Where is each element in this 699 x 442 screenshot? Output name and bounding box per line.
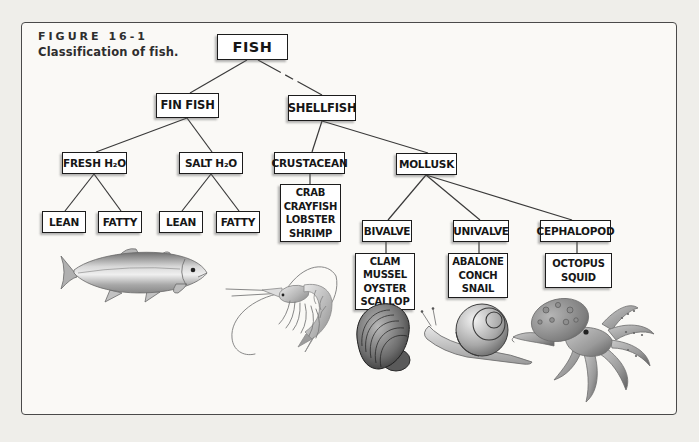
node-fresh-h2o: FRESH H₂O bbox=[62, 152, 127, 174]
node-salt-h2o: SALT H₂O bbox=[179, 152, 243, 174]
trout-illustration bbox=[58, 246, 210, 306]
node-mollusk: MOLLUSK bbox=[396, 153, 457, 175]
node-crustacean: CRUSTACEAN bbox=[274, 152, 345, 174]
arm-right bbox=[608, 325, 654, 340]
node-fresh-lean: LEAN bbox=[42, 211, 86, 233]
shrimp-eye bbox=[282, 294, 285, 297]
fish-eye bbox=[191, 268, 196, 273]
figure-label: FIGURE 16-1 bbox=[38, 30, 148, 43]
node-univalve: UNIVALVE bbox=[453, 220, 509, 242]
octopus-illustration bbox=[510, 292, 662, 408]
tentacle-1 bbox=[422, 312, 431, 326]
node-cephalopod: CEPHALOPOD bbox=[540, 220, 611, 242]
octopus-eye bbox=[583, 329, 588, 334]
node-fin-fish: FIN FISH bbox=[156, 93, 219, 118]
figure-page: FIGURE 16-1 Classification of fish. FISH… bbox=[0, 0, 699, 442]
node-salt-fatty: FATTY bbox=[216, 211, 260, 233]
node-fish: FISH bbox=[217, 34, 288, 60]
fish-body bbox=[74, 252, 207, 293]
node-shellfish: SHELLFISH bbox=[288, 95, 356, 121]
pectoral-fin bbox=[173, 284, 187, 293]
shrimp-illustration bbox=[224, 246, 340, 360]
node-salt-lean: LEAN bbox=[159, 211, 203, 233]
tentacle-tip-2 bbox=[432, 307, 435, 310]
arm-down bbox=[584, 352, 597, 402]
node-crustacean-examples: CRAB CRAYFISH LOBSTER SHRIMP bbox=[280, 184, 341, 242]
node-fresh-fatty: FATTY bbox=[98, 211, 142, 233]
tentacle-2 bbox=[433, 309, 436, 325]
figure-caption: Classification of fish. bbox=[38, 45, 179, 59]
mussel-illustration bbox=[352, 298, 414, 380]
tentacle-tip-1 bbox=[421, 310, 424, 313]
node-univalve-examples: ABALONE CONCH SNAIL bbox=[448, 253, 508, 298]
arm-left-curl bbox=[512, 337, 514, 342]
arm-down-right-2 bbox=[600, 348, 628, 390]
node-bivalve: BIVALVE bbox=[362, 220, 412, 242]
antenna-loop bbox=[232, 293, 282, 355]
node-cephalopod-examples: OCTOPUS SQUID bbox=[545, 253, 612, 288]
